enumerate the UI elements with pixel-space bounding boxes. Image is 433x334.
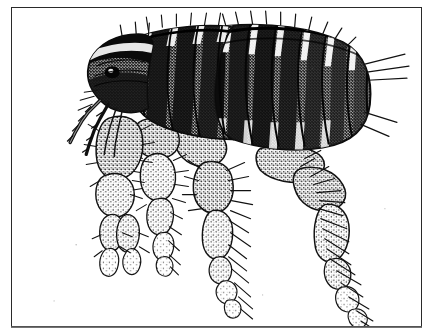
flea-lateral-drawing (12, 8, 421, 326)
page-canvas (0, 0, 433, 334)
illustration-frame (11, 7, 422, 327)
flea-illustration (12, 8, 421, 326)
